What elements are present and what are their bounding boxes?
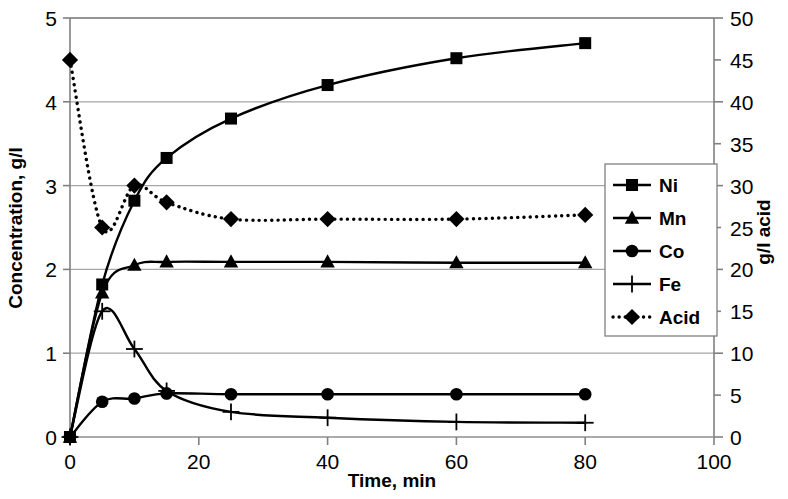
- secondary-y-axis-tick-label: 40: [730, 91, 753, 114]
- data-point-co: [579, 388, 592, 401]
- data-point-co: [321, 388, 334, 401]
- y-axis-tick-label: 4: [45, 91, 57, 114]
- x-axis-tick-label: 20: [187, 450, 210, 473]
- y-axis-tick-label: 5: [45, 7, 57, 30]
- secondary-y-axis-tick-label: 35: [730, 133, 753, 156]
- y-axis-tick-label: 2: [45, 258, 57, 281]
- data-point-ni: [450, 52, 462, 64]
- y-axis-tick-label: 1: [45, 342, 57, 365]
- data-point-co: [128, 392, 141, 405]
- secondary-y-axis-tick-label: 50: [730, 7, 753, 30]
- data-point-ni: [322, 79, 334, 91]
- data-point-ni: [579, 37, 591, 49]
- y-axis-title: Concentration, g/l: [5, 147, 26, 309]
- data-point-ni: [225, 113, 237, 125]
- chart-page: 01234505101520253035404550020406080100 T…: [0, 0, 788, 499]
- secondary-y-axis-tick-label: 30: [730, 175, 753, 198]
- secondary-y-axis-title: g/l acid: [753, 199, 774, 264]
- data-point-co: [450, 388, 463, 401]
- legend-marker-ni: [626, 179, 638, 191]
- secondary-y-axis-tick-label: 45: [730, 49, 753, 72]
- data-point-ni: [128, 195, 140, 207]
- data-point-co: [225, 388, 238, 401]
- data-point-co: [96, 396, 109, 409]
- legend-marker-co: [626, 245, 639, 258]
- secondary-y-axis-tick-label: 20: [730, 258, 753, 281]
- legend-label-acid: Acid: [659, 307, 700, 328]
- x-axis-title: Time, min: [348, 470, 436, 491]
- x-axis-tick-label: 0: [64, 450, 76, 473]
- x-axis-tick-label: 80: [574, 450, 597, 473]
- secondary-y-axis-tick-label: 15: [730, 300, 753, 323]
- secondary-y-axis-tick-label: 10: [730, 342, 753, 365]
- x-axis-tick-label: 60: [445, 450, 468, 473]
- data-point-ni: [161, 152, 173, 164]
- x-axis-tick-label: 40: [316, 450, 339, 473]
- legend-label-co: Co: [659, 241, 684, 262]
- concentration-vs-time-chart: 01234505101520253035404550020406080100 T…: [0, 0, 788, 499]
- legend-label-mn: Mn: [659, 208, 686, 229]
- legend-label-fe: Fe: [659, 274, 681, 295]
- chart-legend[interactable]: NiMnCoFeAcid: [605, 164, 717, 336]
- x-axis-tick-label: 100: [696, 450, 731, 473]
- secondary-y-axis-tick-label: 25: [730, 217, 753, 240]
- secondary-y-axis-tick-label: 5: [730, 384, 742, 407]
- legend-label-ni: Ni: [659, 175, 678, 196]
- secondary-y-axis-tick-label: 0: [730, 426, 742, 449]
- y-axis-tick-label: 3: [45, 175, 57, 198]
- y-axis-tick-label: 0: [45, 426, 57, 449]
